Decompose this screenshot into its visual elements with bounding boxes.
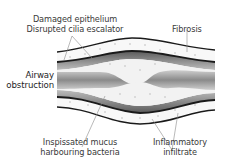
label-harbouring-bacteria: harbouring bacteria — [30, 147, 130, 157]
label-fibrosis: Fibrosis — [172, 24, 202, 34]
label-inflammatory: Inflammatory — [140, 137, 220, 147]
label-obstruction: obstruction — [0, 80, 54, 90]
label-damaged-epithelium: Damaged epithelium — [30, 14, 120, 24]
label-airway: Airway — [0, 70, 54, 80]
label-disrupted-cilia: Disrupted cilia escalator — [22, 24, 128, 34]
airway-diagram: Damaged epithelium Disrupted cilia escal… — [0, 0, 229, 167]
label-infiltrate: infiltrate — [140, 147, 220, 157]
label-inspissated-mucus: Inspissated mucus — [30, 137, 130, 147]
